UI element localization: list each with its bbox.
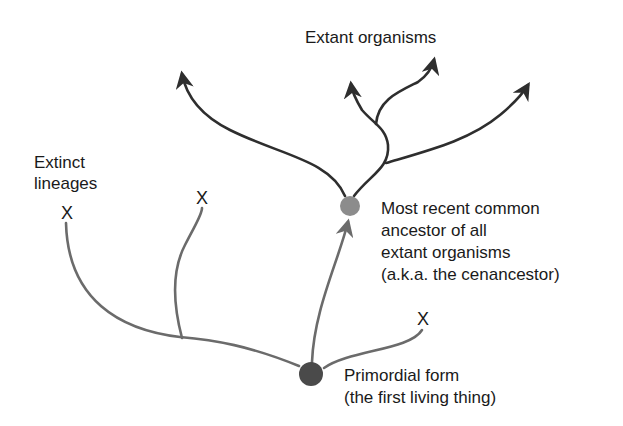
primordial-to-cenancestor-branch: [312, 222, 348, 362]
extant-branch-upper-right: [376, 60, 434, 124]
cenancestor-label-line1: Most recent common: [381, 199, 540, 219]
extinct-marker-left: X: [61, 204, 73, 222]
extinct-marker-middle: X: [196, 189, 208, 207]
extinct-marker-right: X: [417, 310, 429, 328]
primordial-node: [299, 362, 323, 386]
extinct-branch-middle: [175, 208, 202, 338]
extant-branch-left: [182, 74, 345, 196]
cenancestor-label-line2: ancestor of all: [381, 221, 487, 241]
cenancestor-label-line3: extant organisms: [381, 243, 510, 263]
primordial-label-line1: Primordial form: [344, 366, 459, 386]
extant-organisms-label: Extant organisms: [305, 28, 436, 48]
extinct-branch-left: [66, 223, 299, 366]
extant-branch-stem: [351, 84, 388, 196]
extant-branch-right: [386, 85, 528, 163]
extinct-lineages-label-line1: Extinct: [34, 153, 85, 173]
extinct-branch-right: [324, 330, 422, 368]
primordial-label-line2: (the first living thing): [344, 388, 496, 408]
extinct-lineages-label-line2: lineages: [34, 174, 97, 194]
cenancestor-node: [340, 196, 360, 216]
phylogeny-diagram: Extant organisms Extinct lineages X X X …: [0, 0, 623, 426]
cenancestor-label-line4: (a.k.a. the cenancestor): [381, 265, 560, 285]
